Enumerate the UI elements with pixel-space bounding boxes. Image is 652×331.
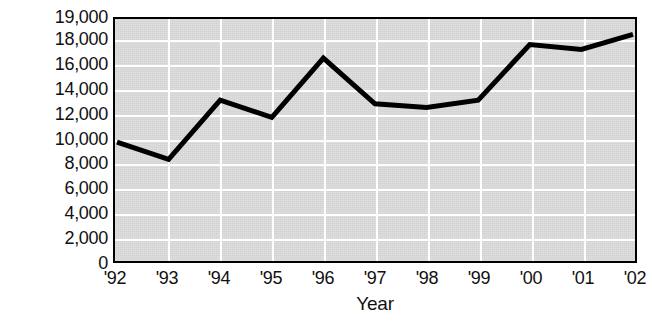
x-axis-tick-label: '96	[293, 266, 353, 290]
plot-area	[113, 17, 637, 263]
y-axis-tick-label: 6,000	[34, 179, 108, 197]
x-axis-tick-label: '95	[241, 266, 301, 290]
line-chart-figure: Number of reported cases 02,0004,0006,00…	[0, 0, 652, 331]
x-axis-tick-label: '00	[501, 266, 561, 290]
y-axis-tick-label: 8,000	[34, 154, 108, 172]
y-axis-tick-label: 19,000	[34, 8, 108, 26]
y-axis-tick-label: 12,000	[34, 105, 108, 123]
y-axis-tick-label: 2,000	[34, 229, 108, 247]
y-axis-tick-label: 14,000	[34, 80, 108, 98]
x-axis-tick-label: '01	[553, 266, 613, 290]
x-axis-tick-label: '02	[605, 266, 652, 290]
x-axis-tick-label: '97	[345, 266, 405, 290]
y-axis-tick-label: 18,000	[34, 30, 108, 48]
x-axis-tick-label: '99	[449, 266, 509, 290]
y-axis-tick-label: 16,000	[34, 55, 108, 73]
data-series-line	[115, 19, 635, 263]
y-axis-tick-label: 4,000	[34, 204, 108, 222]
x-axis-title: Year	[113, 292, 637, 316]
x-axis-tick-label: '93	[137, 266, 197, 290]
x-axis-tick-label: '94	[189, 266, 249, 290]
x-axis-tick-label: '92	[85, 266, 145, 290]
y-axis-tick-label: 10,000	[34, 130, 108, 148]
x-axis-tick-label: '98	[397, 266, 457, 290]
x-axis-tick-label-group: '92'93'94'95'96'97'98'99'00'01'02	[113, 266, 637, 292]
